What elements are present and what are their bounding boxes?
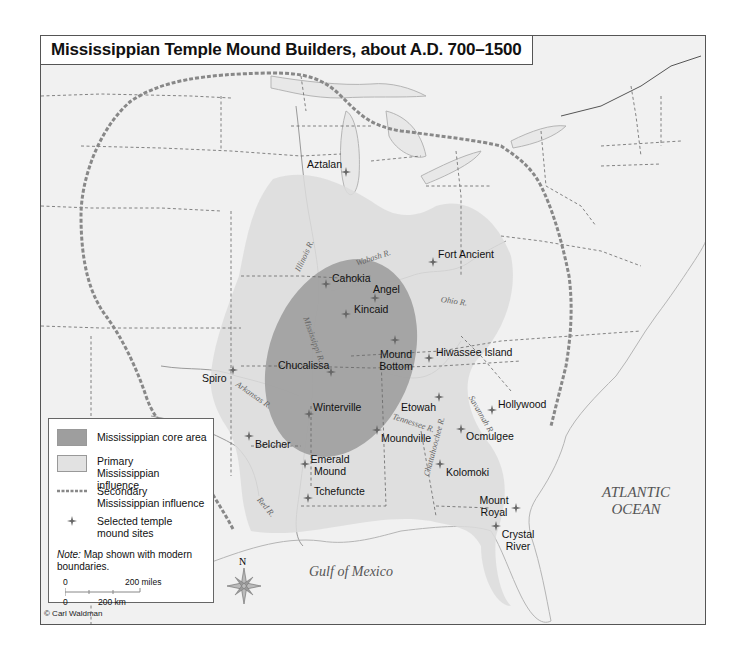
legend-item-core: Mississippian core area [57,429,207,446]
lake-superior [271,76,426,98]
scale-km-label: 200 km [98,597,126,607]
lake-michigan [340,111,359,195]
site-label-mount-royal[interactable]: Mount Royal [474,494,514,518]
site-label-chucalissa[interactable]: Chucalissa [278,359,329,371]
site-label-mound-bottom[interactable]: Mound Bottom [373,348,419,372]
site-marker-belcher [244,431,254,441]
compass-rose: N [227,556,261,606]
site-label-cahokia[interactable]: Cahokia [332,272,371,284]
site-label-emerald-mound[interactable]: Emerald Mound [310,453,350,477]
note-label: Note: [57,549,81,560]
site-label-hollywood[interactable]: Hollywood [498,398,546,410]
lake-erie [421,151,481,184]
site-marker-tchefuncte [303,493,313,503]
site-label-tchefuncte[interactable]: Tchefuncte [314,485,365,497]
primary-influence-swatch [57,455,87,472]
legend-sites-label: Selected temple mound sites [97,515,207,539]
site-marker-aztalan [341,167,351,177]
scale-miles-zero: 0 [63,577,68,587]
site-label-spiro[interactable]: Spiro [202,372,227,384]
site-marker-hollywood [487,405,497,415]
map-title-box: Mississippian Temple Mound Builders, abo… [40,35,533,65]
site-marker-mound-bottom [390,335,400,345]
site-label-kolomoki[interactable]: Kolomoki [446,466,489,478]
scale-bar-line [65,588,165,596]
site-marker-cahokia [321,279,331,289]
site-label-angel[interactable]: Angel [373,283,400,295]
site-label-fort-ancient[interactable]: Fort Ancient [438,248,494,260]
gulf-of-mexico-label: Gulf of Mexico [291,564,411,580]
site-marker-spiro [228,365,238,375]
atlantic-ocean-label: ATLANTIC OCEAN [581,484,691,519]
dashed-line-icon [57,485,87,497]
site-label-winterville[interactable]: Winterville [313,401,361,413]
compass-star-icon [227,568,261,604]
core-area-swatch [57,429,87,446]
site-marker-emerald-mound [300,459,310,469]
site-label-ocmulgee[interactable]: Ocmulgee [466,430,514,442]
site-marker-kolomoki [435,459,445,469]
scale-bar: 0 200 miles 0 200 km [63,577,183,607]
site-marker-ocmulgee [456,424,466,434]
site-marker-kincaid [341,309,351,319]
legend-core-label: Mississippian core area [97,429,207,443]
site-label-moundville[interactable]: Moundville [381,432,431,444]
legend-item-secondary: Secondary Mississippian influence [57,485,207,509]
site-label-etowah[interactable]: Etowah [401,401,436,413]
legend-item-sites: Selected temple mound sites [57,515,207,539]
lake-ontario [511,126,566,148]
site-marker-fort-ancient [428,257,438,267]
site-label-belcher[interactable]: Belcher [255,438,291,450]
legend-note: Note: Map shown with modern boundaries. [57,549,207,573]
site-label-kincaid[interactable]: Kincaid [354,303,388,315]
scale-miles-label: 200 miles [125,577,161,587]
site-star-icon [57,515,87,527]
map-title: Mississippian Temple Mound Builders, abo… [51,40,522,60]
compass-north-label: N [239,556,246,567]
site-label-hiwassee-island[interactable]: Hiwassee Island [436,346,512,358]
site-marker-hiwassee-island [424,353,434,363]
legend: Mississippian core area Primary Mississi… [48,418,214,603]
scale-km-zero: 0 [63,597,68,607]
site-label-crystal-river[interactable]: Crystal River [498,528,538,552]
legend-secondary-label: Secondary Mississippian influence [97,485,207,509]
site-label-aztalan[interactable]: Aztalan [307,158,342,170]
copyright-credit: © Carl Waldman [44,609,103,618]
